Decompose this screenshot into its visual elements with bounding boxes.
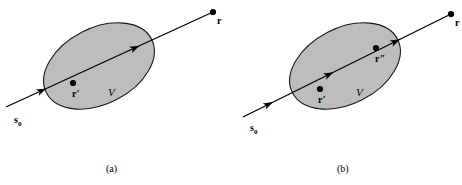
panel-b-caption: (b) <box>337 163 349 175</box>
panel-b-observation-point-r-dot <box>448 11 454 17</box>
panels-group: Vs0r′r(a)Vs0r′r″r(b) <box>6 5 460 175</box>
panel-b-ray-arrowhead-1 <box>263 99 275 110</box>
panel-a: Vs0r′r(a) <box>6 5 222 175</box>
scattering-geometry-figure: Vs0r′r(a)Vs0r′r″r(b) <box>0 0 462 185</box>
panel-a-source-point-label: s0 <box>14 114 22 128</box>
panel-a-caption: (a) <box>106 163 117 175</box>
panel-a-scatter-point-r-prime-label: r′ <box>72 88 80 99</box>
panel-b-observation-point-r-label: r <box>455 17 460 28</box>
panel-a-observation-point-r-label: r <box>217 15 222 26</box>
panel-b-scatter-point-r-prime-dot <box>317 86 323 92</box>
panel-b-source-point-label: s0 <box>250 122 258 136</box>
panel-a-scattering-volume <box>29 5 169 126</box>
panel-b: Vs0r′r″r(b) <box>243 5 460 175</box>
panel-b-scatter-point-r-double-prime-label: r″ <box>375 53 385 64</box>
figure-canvas: Vs0r′r(a)Vs0r′r″r(b) <box>0 0 462 185</box>
panel-b-scatter-point-r-double-prime-dot <box>373 45 379 51</box>
panel-a-scatter-point-r-prime-dot <box>70 80 76 86</box>
panel-a-observation-point-r-dot <box>210 9 216 15</box>
panel-b-scatter-point-r-prime-label: r′ <box>318 94 326 105</box>
